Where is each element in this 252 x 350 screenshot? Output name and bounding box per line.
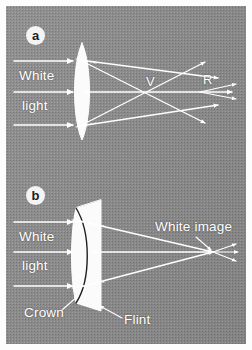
flint-leader	[100, 306, 122, 318]
panel-a-source-label-line2: light	[22, 98, 48, 113]
panel-b-source-label-line2: light	[22, 258, 48, 273]
panel-a-refracted-rays-lower	[80, 62, 218, 126]
panel-b-diverging-rays	[213, 244, 238, 261]
violet-focus-label: V	[146, 74, 155, 89]
panel-a-badge: a	[26, 26, 45, 45]
crown-label: Crown	[24, 305, 64, 320]
figure-container: a White light V R b White light White im…	[0, 0, 252, 350]
panel-b-source-label-line1: White	[19, 229, 55, 244]
ray-diagram-artwork	[0, 0, 252, 350]
flint-label: Flint	[124, 312, 151, 327]
white-image-label: White image	[155, 219, 232, 234]
panel-b-badge: b	[26, 186, 45, 205]
red-focus-label: R	[203, 72, 213, 87]
panel-a-source-label-line1: White	[19, 68, 55, 83]
